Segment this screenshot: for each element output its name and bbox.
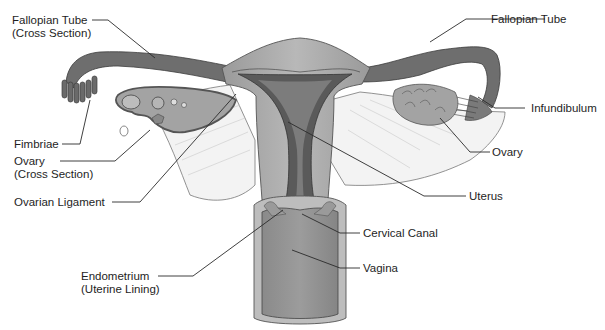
label-ovary: Ovary	[492, 146, 523, 159]
label-fallopian-tube: Fallopian Tube	[491, 13, 566, 26]
label-endometrium: Endometrium (Uterine Lining)	[81, 270, 160, 296]
label-ovary-cross-section: Ovary (Cross Section)	[14, 155, 93, 181]
label-ovarian-ligament: Ovarian Ligament	[14, 196, 105, 209]
label-fallopian-tube-cross-section: Fallopian Tube (Cross Section)	[12, 14, 91, 40]
label-vagina: Vagina	[363, 262, 398, 275]
vagina	[254, 196, 346, 324]
label-cervical-canal: Cervical Canal	[363, 227, 438, 240]
label-infundibulum: Infundibulum	[531, 102, 597, 115]
label-fimbriae: Fimbriae	[14, 138, 59, 151]
label-uterus: Uterus	[469, 190, 503, 203]
anatomy-diagram: Fallopian Tube (Cross Section) Fimbriae …	[0, 0, 605, 330]
